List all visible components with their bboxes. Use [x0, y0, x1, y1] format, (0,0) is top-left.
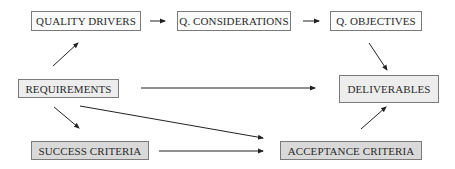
node-q-objectives: Q. OBJECTIVES — [330, 11, 422, 31]
node-q-considerations: Q. CONSIDERATIONS — [177, 11, 291, 31]
edge-acceptance-to-deliverables — [361, 107, 386, 129]
node-label: QUALITY DRIVERS — [36, 15, 136, 27]
node-success-criteria: SUCCESS CRITERIA — [31, 141, 149, 160]
node-requirements: REQUIREMENTS — [18, 79, 119, 98]
node-label: ACCEPTANCE CRITERIA — [288, 145, 415, 157]
node-label: Q. CONSIDERATIONS — [179, 15, 288, 27]
node-quality-drivers: QUALITY DRIVERS — [31, 11, 141, 31]
node-label: Q. OBJECTIVES — [336, 15, 416, 27]
edge-objectives-to-deliverables — [369, 43, 387, 70]
node-deliverables: DELIVERABLES — [339, 75, 439, 103]
node-acceptance-criteria: ACCEPTANCE CRITERIA — [280, 141, 422, 160]
edge-requirements-to-acceptance — [80, 106, 263, 138]
node-label: SUCCESS CRITERIA — [39, 145, 142, 157]
edge-requirements-to-quality-drivers — [53, 43, 78, 66]
node-label: DELIVERABLES — [347, 83, 430, 95]
quality-flow-diagram: QUALITY DRIVERS Q. CONSIDERATIONS Q. OBJ… — [0, 0, 455, 169]
edge-requirements-to-success — [54, 107, 79, 128]
node-label: REQUIREMENTS — [25, 83, 111, 95]
